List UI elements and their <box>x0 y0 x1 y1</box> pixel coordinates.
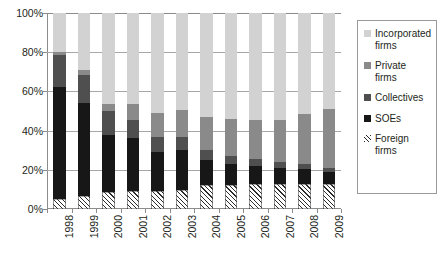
x-axis-tick-label: 2007 <box>285 215 296 238</box>
legend-item: Foreignfirms <box>364 133 432 156</box>
stacked-bar-chart: 100%80%60%40%20%0% 199819992000200120022… <box>0 0 444 258</box>
x-axis-tick-label: 2005 <box>236 215 247 238</box>
x-axis-tick-mark <box>72 209 73 213</box>
hatch-swatch-icon <box>364 135 371 142</box>
x-axis-tick-mark <box>47 209 48 213</box>
light-gray-swatch-icon <box>364 30 371 37</box>
legend-item: Privatefirms <box>364 60 432 83</box>
legend-item: SOEs <box>364 113 432 125</box>
legend-item-label: Privatefirms <box>375 60 406 83</box>
x-axis-tick-label: 1998 <box>64 215 75 238</box>
medium-gray-swatch-icon <box>364 62 371 69</box>
x-axis-tick-mark <box>170 209 171 213</box>
legend-item-label: Foreignfirms <box>375 133 409 156</box>
x-axis-tick-mark <box>145 209 146 213</box>
black-swatch-icon <box>364 115 371 122</box>
x-axis-tick-mark <box>219 209 220 213</box>
x-axis-tick-label: 2001 <box>138 215 149 238</box>
x-axis-tick-mark <box>194 209 195 213</box>
legend-item-label: Collectives <box>375 92 423 104</box>
x-axis-tick-mark <box>341 209 342 213</box>
x-axis-tick-label: 2006 <box>260 215 271 238</box>
legend-item-label: Incorporatedfirms <box>375 28 431 51</box>
x-axis-tick-label: 2000 <box>113 215 124 238</box>
x-axis-tick-mark <box>268 209 269 213</box>
x-axis-tick-label: 2008 <box>309 215 320 238</box>
x-axis-tick-mark <box>243 209 244 213</box>
chart-legend: IncorporatedfirmsPrivatefirmsCollectives… <box>357 20 437 194</box>
x-axis-tick-label: 2009 <box>334 215 345 238</box>
x-axis-tick-mark <box>96 209 97 213</box>
legend-item: Collectives <box>364 92 432 104</box>
x-axis-tick-label: 2004 <box>211 215 222 238</box>
x-axis-tick-label: 2002 <box>162 215 173 238</box>
x-axis-tick-mark <box>317 209 318 213</box>
x-axis-tick-label: 1999 <box>89 215 100 238</box>
x-axis-tick-mark <box>292 209 293 213</box>
legend-item-label: SOEs <box>375 113 401 125</box>
dark-gray-swatch-icon <box>364 94 371 101</box>
x-axis-tick-mark <box>121 209 122 213</box>
x-axis-tick-label: 2003 <box>187 215 198 238</box>
legend-item: Incorporatedfirms <box>364 28 432 51</box>
